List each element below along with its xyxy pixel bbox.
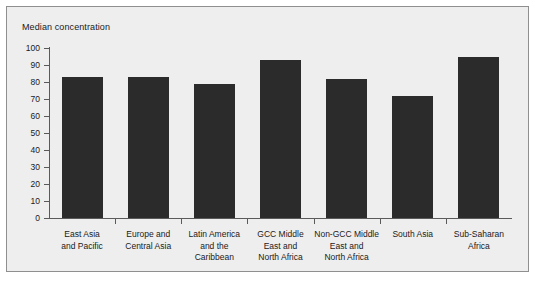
y-axis-tick-label: 0 <box>14 214 40 223</box>
x-axis-category-label: East Asia and Pacific <box>49 229 115 252</box>
x-axis-tick <box>446 219 447 224</box>
y-axis-tick <box>44 150 50 151</box>
x-axis-tick <box>181 219 182 224</box>
bar <box>260 60 301 218</box>
bar <box>62 77 103 218</box>
y-axis-tick <box>44 99 50 100</box>
y-axis-tick <box>44 201 50 202</box>
y-axis-tick <box>44 48 50 49</box>
bar <box>128 77 169 218</box>
y-axis-tick <box>44 133 50 134</box>
y-axis-tick-label: 20 <box>14 180 40 189</box>
chart-figure: Median concentration 0102030405060708090… <box>0 0 535 286</box>
x-axis-category-label: GCC Middle East and North Africa <box>247 229 313 264</box>
bar <box>458 57 499 219</box>
y-axis-tick-label: 40 <box>14 146 40 155</box>
y-axis-tick-label: 70 <box>14 95 40 104</box>
y-axis-tick <box>44 82 50 83</box>
y-axis-tick <box>44 65 50 66</box>
y-axis-tick-label: 10 <box>14 197 40 206</box>
y-axis-tick <box>44 218 50 219</box>
bar <box>392 96 433 218</box>
y-axis-tick-label: 100 <box>14 44 40 53</box>
plot-area: 0102030405060708090100East Asia and Paci… <box>0 0 535 286</box>
y-axis-tick <box>44 184 50 185</box>
x-axis-tick <box>247 219 248 224</box>
x-axis-tick <box>314 219 315 224</box>
x-axis-category-label: Sub-Saharan Africa <box>446 229 512 252</box>
x-axis-category-label: South Asia <box>380 229 446 241</box>
x-axis-category-label: Latin America and the Caribbean <box>181 229 247 264</box>
y-axis-tick-label: 50 <box>14 129 40 138</box>
y-axis-tick-label: 80 <box>14 78 40 87</box>
x-axis-tick <box>115 219 116 224</box>
x-axis-category-label: Non-GCC Middle East and North Africa <box>314 229 380 264</box>
y-axis-tick-label: 60 <box>14 112 40 121</box>
bar <box>326 79 367 218</box>
bar <box>194 84 235 218</box>
y-axis-tick-label: 30 <box>14 163 40 172</box>
y-axis-tick-label: 90 <box>14 61 40 70</box>
x-axis-tick <box>380 219 381 224</box>
x-axis-category-label: Europe and Central Asia <box>115 229 181 252</box>
y-axis-tick <box>44 167 50 168</box>
x-axis-line <box>49 218 512 219</box>
y-axis-tick <box>44 116 50 117</box>
